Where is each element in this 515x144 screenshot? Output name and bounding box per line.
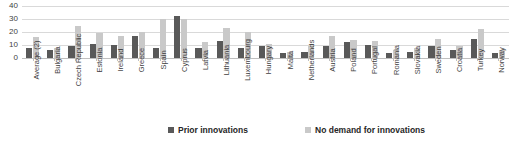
- x-axis-tick: Average (2): [22, 59, 43, 117]
- x-axis-tick: Norway: [488, 59, 509, 117]
- bar-chart: 403020100 Average (2)BulgariaCzech Repub…: [0, 0, 515, 144]
- x-axis-tick-label: Austria: [329, 48, 337, 71]
- y-axis-tick-label: 30: [9, 15, 18, 23]
- x-axis-tick-label: Cyprus: [181, 48, 189, 72]
- x-axis-tick-label: Ireland: [117, 49, 125, 72]
- x-axis-tick-label: Estonia: [96, 47, 104, 72]
- x-axis-tick: Cyprus: [170, 59, 191, 117]
- y-axis-tick-label: 0: [14, 54, 18, 62]
- y-axis-tick-label: 40: [9, 2, 18, 10]
- y-axis-tick-label: 10: [9, 41, 18, 49]
- x-axis-tick: Romania: [382, 59, 403, 117]
- y-axis: 403020100: [0, 0, 20, 60]
- y-axis-tick-label: 20: [9, 28, 18, 36]
- x-axis-tick-label: Greece: [138, 48, 146, 73]
- x-axis-tick: Ireland: [107, 59, 128, 117]
- x-axis-tick: Latvia: [191, 59, 212, 117]
- x-axis-tick: Spain: [149, 59, 170, 117]
- x-axis-tick: Croatia: [445, 59, 466, 117]
- x-axis-tick-label: Latvia: [202, 50, 210, 70]
- x-axis-tick: Austria: [318, 59, 339, 117]
- x-axis-tick-label: Turkey: [477, 49, 485, 72]
- x-axis-tick: Slovakia: [403, 59, 424, 117]
- series-prior-innovations-swatch: [168, 127, 174, 133]
- x-axis-tick: Czech Republic: [64, 59, 85, 117]
- x-axis-tick-label: Romania: [393, 45, 401, 75]
- x-axis-tick-label: Poland: [350, 48, 358, 71]
- legend-label: Prior innovations: [178, 126, 248, 135]
- x-axis-tick: Luxembourg: [234, 59, 255, 117]
- x-axis-tick-label: Average (2): [33, 40, 41, 79]
- x-axis: Average (2)BulgariaCzech RepublicEstonia…: [22, 59, 509, 117]
- x-axis-tick: Bulgaria: [43, 59, 64, 117]
- chart-legend: Prior innovationsNo demand for innovatio…: [0, 124, 515, 138]
- x-axis-tick-label: Croatia: [456, 48, 464, 72]
- x-axis-tick: Estonia: [86, 59, 107, 117]
- x-axis-tick-label: Norway: [498, 47, 506, 72]
- x-axis-tick-label: Spain: [160, 50, 168, 69]
- x-axis-tick-label: Sweden: [435, 46, 443, 73]
- x-axis-tick: Sweden: [424, 59, 445, 117]
- legend-label: No demand for innovations: [315, 126, 425, 135]
- legend-entry[interactable]: No demand for innovations: [305, 124, 425, 136]
- x-axis-tick: Poland: [340, 59, 361, 117]
- x-axis-tick-label: Czech Republic: [75, 34, 83, 87]
- x-axis-tick: Turkey: [467, 59, 488, 117]
- x-axis-tick-label: Slovakia: [414, 46, 422, 74]
- x-axis-tick: Portugal: [361, 59, 382, 117]
- legend-entry[interactable]: Prior innovations: [168, 124, 248, 136]
- x-axis-tick-label: Malta: [287, 51, 295, 69]
- x-axis-tick-label: Luxembourg: [244, 39, 252, 81]
- x-axis-tick-label: Bulgaria: [54, 46, 62, 74]
- x-axis-tick: Hungary: [255, 59, 276, 117]
- x-axis-tick: Lithuania: [213, 59, 234, 117]
- x-axis-tick-label: Lithuania: [223, 45, 231, 75]
- x-axis-tick: Netherlands: [297, 59, 318, 117]
- x-axis-tick-label: Hungary: [265, 46, 273, 74]
- x-axis-tick: Greece: [128, 59, 149, 117]
- x-axis-tick-label: Netherlands: [308, 40, 316, 80]
- series-no-demand-swatch: [305, 127, 311, 133]
- x-axis-tick: Malta: [276, 59, 297, 117]
- x-axis-tick-label: Portugal: [371, 46, 379, 74]
